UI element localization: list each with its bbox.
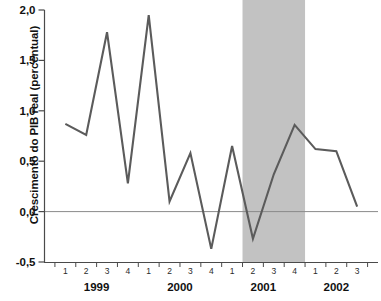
gdp-growth-series-line [65,15,357,249]
y-axis-ticks [39,10,45,262]
chart-canvas [0,0,381,301]
recession-shaded-band [243,0,306,262]
gdp-growth-line-chart: Crescimento do PIB real (percentual) 2,0… [0,0,381,301]
plot-area: 2,01,51,00,50,0-0,5 12341234123412319992… [0,0,381,301]
